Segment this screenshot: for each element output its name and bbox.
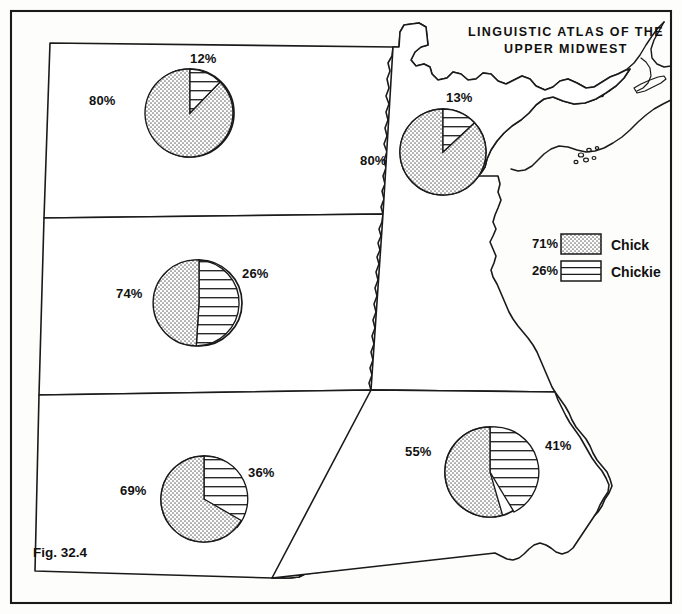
figure-page: 80% 12% 80% 13% 74% 26% 69% — [0, 0, 682, 614]
legend-swatch-chickie — [561, 261, 601, 281]
pie-label-nd-chickie: 12% — [190, 51, 217, 66]
pie-label-ne-chick: 69% — [120, 483, 147, 498]
upper-peninsula-coast — [511, 100, 671, 171]
pie-label-ia-chickie: 41% — [545, 438, 572, 453]
atlas-title-line1: LINGUISTIC ATLAS OF THE — [468, 25, 664, 39]
legend-swatch-chick — [561, 234, 601, 254]
keweenaw-bay-coast — [637, 58, 651, 91]
legend-pct-chick: 71% — [532, 236, 558, 251]
linguistic-atlas-map: 80% 12% 80% 13% 74% 26% 69% — [0, 0, 682, 614]
pie-label-mn-chick: 80% — [360, 153, 387, 168]
pie-label-sd-chick: 74% — [116, 286, 143, 301]
atlas-title-line2: UPPER MIDWEST — [504, 42, 628, 56]
legend: 71% Chick 26% Chickie — [532, 234, 661, 281]
pie-label-nd-chick: 80% — [89, 93, 116, 108]
figure-caption: Fig. 32.4 — [33, 545, 88, 560]
state-minnesota — [371, 23, 630, 392]
pie-label-ia-chick: 55% — [405, 444, 432, 459]
pie-label-mn-chickie: 13% — [446, 90, 473, 105]
apostle-islands — [574, 147, 599, 164]
legend-pct-chickie: 26% — [532, 263, 558, 278]
legend-label-chick: Chick — [611, 237, 649, 253]
legend-label-chickie: Chickie — [611, 264, 661, 280]
pie-label-sd-chickie: 26% — [242, 266, 269, 281]
pie-label-ne-chickie: 36% — [248, 465, 275, 480]
